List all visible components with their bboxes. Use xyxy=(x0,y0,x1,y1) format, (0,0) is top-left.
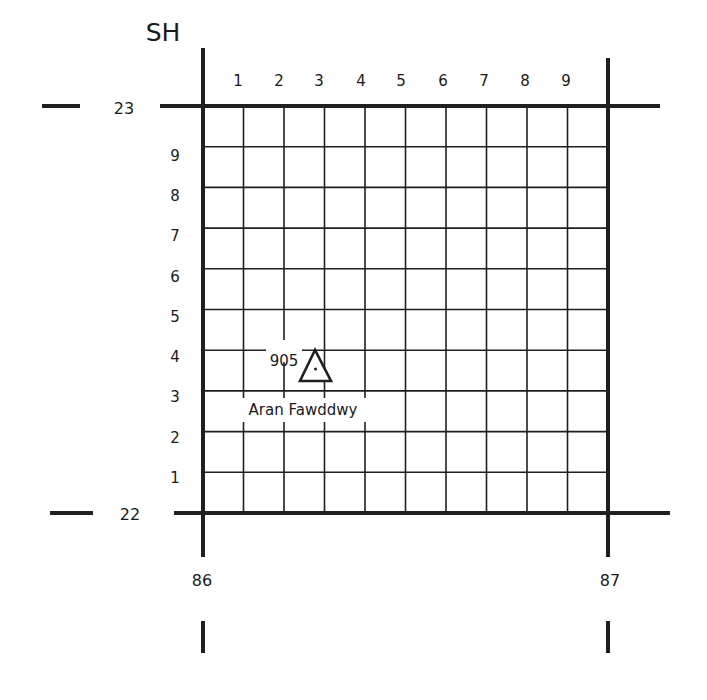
place-name-label: Aran Fawddwy xyxy=(249,401,358,419)
column-label-6: 6 xyxy=(438,72,448,90)
easting-label-right: 87 xyxy=(600,571,620,590)
trig-point-icon xyxy=(300,350,331,381)
column-label-9: 9 xyxy=(561,72,571,90)
row-label-8: 8 xyxy=(170,187,180,205)
grid-reference-diagram xyxy=(0,0,707,700)
northing-label-top: 23 xyxy=(114,99,134,118)
column-label-7: 7 xyxy=(479,72,489,90)
column-label-5: 5 xyxy=(396,72,406,90)
column-label-1: 1 xyxy=(233,72,243,90)
row-label-4: 4 xyxy=(170,348,180,366)
row-label-6: 6 xyxy=(170,268,180,286)
column-label-3: 3 xyxy=(314,72,324,90)
row-label-3: 3 xyxy=(170,388,180,406)
spot-height-label: 905 xyxy=(270,352,299,370)
row-label-2: 2 xyxy=(170,429,180,447)
row-label-9: 9 xyxy=(170,147,180,165)
easting-label-left: 86 xyxy=(192,571,212,590)
grid-square-label: SH xyxy=(146,18,181,47)
column-label-2: 2 xyxy=(274,72,284,90)
row-label-7: 7 xyxy=(170,227,180,245)
column-label-8: 8 xyxy=(520,72,530,90)
northing-label-bottom: 22 xyxy=(120,505,140,524)
row-label-1: 1 xyxy=(170,469,180,487)
minor-grid xyxy=(203,106,608,513)
row-label-5: 5 xyxy=(170,308,180,326)
column-label-4: 4 xyxy=(356,72,366,90)
